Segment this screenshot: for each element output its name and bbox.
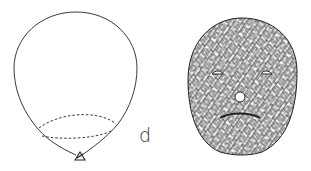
figure-canvas — [0, 0, 311, 171]
balloon-icon — [14, 12, 137, 160]
face-icon — [188, 18, 297, 155]
panel-label: d — [139, 124, 151, 146]
